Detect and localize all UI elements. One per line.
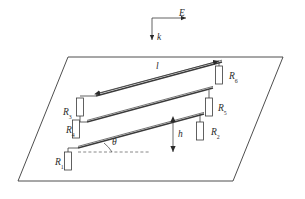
resistor-label-r6: R6 — [229, 72, 238, 84]
resistor-box-r2 — [197, 122, 204, 140]
resistor-subscript: 1 — [61, 164, 64, 170]
resistor-subscript: 6 — [235, 78, 238, 84]
resistor-label-r3: R3 — [63, 108, 72, 120]
k-vector-label: k — [157, 33, 161, 43]
resistor-symbol: R — [229, 71, 235, 81]
diagram-canvas — [0, 0, 305, 199]
figure-root: E k l h θ R1R4R3R2R5R6 — [0, 0, 305, 199]
resistor-subscript: 3 — [69, 114, 72, 120]
resistor-symbol: R — [55, 157, 61, 167]
resistor-box-r6 — [216, 66, 223, 84]
resistor-label-r5: R5 — [218, 104, 227, 116]
resistor-box-r3 — [77, 98, 84, 116]
resistor-label-r4: R4 — [66, 126, 75, 138]
resistor-symbol: R — [218, 103, 224, 113]
resistor-label-r1: R1 — [55, 158, 64, 170]
resistor-label-r2: R2 — [211, 128, 220, 140]
height-label: h — [178, 130, 183, 140]
length-label: l — [156, 62, 159, 72]
resistor-subscript: 2 — [217, 134, 220, 140]
resistor-symbol: R — [66, 125, 72, 135]
resistor-subscript: 5 — [224, 110, 227, 116]
resistor-box-r5 — [206, 98, 213, 116]
resistor-subscript: 4 — [72, 132, 75, 138]
resistor-symbol: R — [63, 107, 69, 117]
e-vector-label: E — [179, 9, 185, 19]
resistor-box-r1 — [65, 152, 72, 170]
resistor-symbol: R — [211, 127, 217, 137]
angle-label: θ — [112, 138, 117, 148]
